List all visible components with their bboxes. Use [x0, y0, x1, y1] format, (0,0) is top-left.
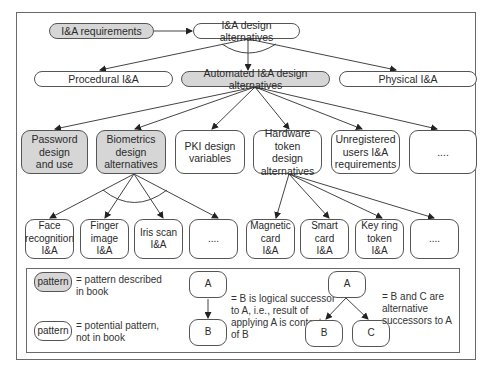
- legend-plain-description: = potential pattern, not in book: [76, 320, 159, 344]
- node-pki-design: PKI design variables: [175, 130, 245, 174]
- node-procedural-ia: Procedural I&A: [34, 71, 173, 87]
- legend-seq-node-a: A: [189, 271, 227, 298]
- legend-alt-node-b: B: [305, 320, 343, 347]
- node-ia-requirements: I&A requirements: [49, 23, 154, 39]
- node-ia-design-alternatives: I&A design alternatives: [193, 23, 300, 39]
- node-more-alternatives: ....: [409, 130, 477, 174]
- node-unregistered-users: Unregistered users I&A requirements: [331, 130, 400, 174]
- node-physical-ia: Physical I&A: [339, 71, 477, 87]
- node-biometrics-design: Biometrics design alternatives: [96, 130, 166, 174]
- node-finger-image: Finger image I&A: [80, 219, 129, 259]
- node-key-ring-token: Key ring token I&A: [355, 219, 404, 259]
- node-smart-card: Smart card I&A: [300, 219, 349, 259]
- legend-plain-pattern-swatch: pattern: [34, 321, 72, 341]
- node-hardware-token-design: Hardware token design alternatives: [253, 130, 322, 174]
- node-biometrics-more: ....: [189, 219, 238, 259]
- node-automated-ia-design-alternatives: Automated I&A design alternatives: [181, 71, 330, 87]
- node-iris-scan: Iris scan I&A: [134, 219, 183, 259]
- legend-shaded-description: = pattern described in book: [76, 274, 162, 298]
- legend-alternatives-description: = B and C are alternative successors to …: [382, 291, 452, 327]
- legend-shaded-pattern-swatch: pattern: [34, 272, 72, 292]
- legend-seq-node-b: B: [189, 319, 227, 346]
- node-hardware-more: ....: [410, 219, 459, 259]
- node-face-recognition: Face recognition I&A: [25, 219, 74, 259]
- node-magnetic-card: Magnetic card I&A: [246, 219, 295, 259]
- legend-alt-node-a: A: [328, 271, 366, 298]
- node-password-design: Password design and use: [21, 130, 88, 174]
